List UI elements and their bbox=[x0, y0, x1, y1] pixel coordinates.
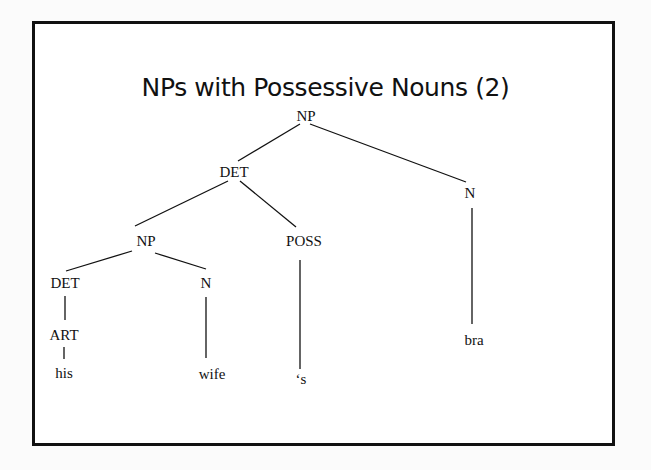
node-det-inner: DET bbox=[50, 275, 79, 292]
node-poss: POSS bbox=[286, 233, 322, 250]
node-n-top: N bbox=[465, 185, 476, 202]
node-n-inner: N bbox=[201, 275, 212, 292]
leaf-bra: bra bbox=[464, 332, 483, 349]
node-np-inner: NP bbox=[136, 233, 155, 250]
tree-edges bbox=[0, 0, 651, 470]
node-art: ART bbox=[49, 327, 78, 344]
leaf-wife: wife bbox=[199, 366, 226, 383]
leaf-possessive-s: ‘s bbox=[296, 371, 307, 388]
leaf-his: his bbox=[55, 365, 73, 382]
node-det-top: DET bbox=[219, 164, 248, 181]
node-np-root: NP bbox=[296, 108, 315, 125]
